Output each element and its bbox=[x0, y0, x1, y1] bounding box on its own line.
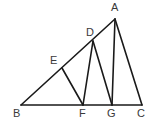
segment-group bbox=[21, 19, 142, 105]
segment-df bbox=[83, 41, 93, 105]
segment-dg bbox=[93, 41, 112, 105]
segment-ef bbox=[62, 68, 83, 105]
geometry-figure: ADEBFGC bbox=[0, 0, 158, 129]
vertex-label-d: D bbox=[86, 27, 94, 38]
vertex-label-b: B bbox=[13, 108, 20, 119]
segment-ac bbox=[115, 19, 142, 105]
vertex-label-c: C bbox=[137, 108, 145, 119]
vertex-label-g: G bbox=[107, 108, 116, 119]
vertex-label-f: F bbox=[79, 108, 86, 119]
vertex-label-e: E bbox=[50, 55, 57, 66]
vertex-label-a: A bbox=[111, 2, 118, 13]
segment-ag bbox=[112, 19, 115, 105]
segment-ba-hypotenuse bbox=[21, 19, 115, 105]
